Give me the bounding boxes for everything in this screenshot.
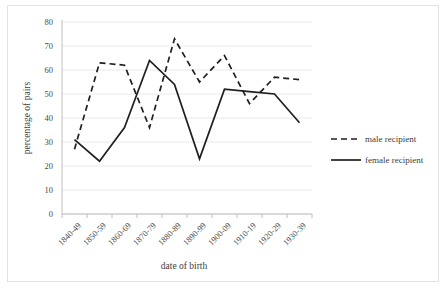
x-axis-tick-label: 1930-39 bbox=[281, 220, 308, 247]
x-axis-tick-label: 1910-19 bbox=[231, 220, 258, 247]
y-axis-tick-label: 10 bbox=[45, 185, 54, 195]
x-axis-tick-label: 1850-59 bbox=[81, 220, 108, 247]
y-axis-tick-label: 70 bbox=[45, 41, 54, 51]
x-axis-tick-label: 1840-49 bbox=[56, 220, 83, 247]
series-line-female bbox=[75, 60, 300, 161]
y-axis-tick-label: 60 bbox=[45, 65, 54, 75]
data-series-group bbox=[75, 39, 300, 161]
y-axis-tick-label: 50 bbox=[45, 89, 54, 99]
x-axis-tick-label: 1860-69 bbox=[106, 220, 133, 247]
x-axis-tick-label: 1900-09 bbox=[206, 220, 233, 247]
chart-plot-svg: 01020304050607080 1840-491850-591860-691… bbox=[0, 0, 447, 291]
x-axis-tick-label: 1880-89 bbox=[156, 220, 183, 247]
y-axis-tick-label-group: 01020304050607080 bbox=[45, 17, 54, 219]
x-axis-tick-label-group: 1840-491850-591860-691870-791880-891890-… bbox=[56, 220, 308, 247]
y-axis-title: percentage of pairs bbox=[22, 82, 32, 155]
x-axis-tick-label: 1890-99 bbox=[181, 220, 208, 247]
y-axis-tick-label: 20 bbox=[45, 161, 54, 171]
y-axis-tick-label: 30 bbox=[45, 137, 54, 147]
y-axis-tick-label: 0 bbox=[49, 209, 53, 219]
chart-container: 01020304050607080 1840-491850-591860-691… bbox=[0, 0, 447, 291]
legend-group: male recipientfemale recipient bbox=[331, 134, 424, 165]
y-axis-tick-label: 40 bbox=[45, 113, 54, 123]
x-axis-tick-label: 1920-29 bbox=[256, 220, 283, 247]
legend-label: female recipient bbox=[365, 155, 424, 165]
x-axis-title: date of birth bbox=[161, 261, 208, 271]
x-axis-tick-label: 1870-79 bbox=[131, 220, 158, 247]
y-axis-tick-label: 80 bbox=[45, 17, 54, 27]
gridline-group bbox=[62, 22, 312, 214]
legend-label: male recipient bbox=[365, 134, 417, 144]
